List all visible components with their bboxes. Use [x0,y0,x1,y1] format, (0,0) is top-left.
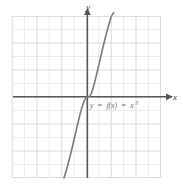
equation-lhs: y [89,101,94,110]
y-axis-label: y [85,2,90,12]
equation-fx: f(x) [106,101,117,110]
equation-base: x [129,101,134,110]
equation-equals-2: = [121,101,125,110]
equation-equals-1: = [98,101,102,110]
x-axis-label: x [172,92,177,102]
equation-exponent: 3 [135,100,138,106]
graph-canvas: y x y = f(x) = x 3 [0,0,183,186]
x-axis-arrow-icon [166,93,173,100]
cubic-function-figure: y x y = f(x) = x 3 [0,0,183,186]
